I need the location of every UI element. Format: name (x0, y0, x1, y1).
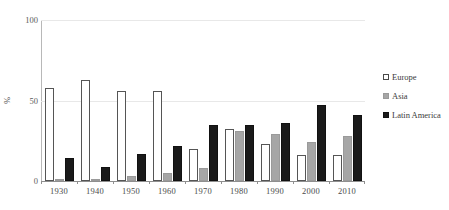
x-tick-label-1940: 1940 (77, 186, 113, 196)
x-tick-mark (41, 181, 42, 184)
gray-square-swatch (383, 93, 389, 99)
bar-group-1950 (113, 20, 149, 181)
bar-group-2000 (293, 20, 329, 181)
x-tick-mark (113, 181, 114, 184)
x-axis-tick-labels: 193019401950196019701980199020002010 (41, 186, 365, 196)
y-tick-label-50: 50 (12, 97, 38, 106)
x-tick-mark (364, 181, 365, 184)
x-tick-mark (221, 181, 222, 184)
bar-group-1970 (185, 20, 221, 181)
bar-europe-1930 (45, 88, 54, 181)
bar-latin-1940 (101, 167, 110, 181)
bar-europe-1970 (189, 149, 198, 181)
x-tick-label-1990: 1990 (257, 186, 293, 196)
bar-europe-2000 (297, 155, 306, 181)
bar-europe-1980 (225, 129, 234, 181)
bar-groups (41, 20, 365, 181)
bar-europe-1940 (81, 80, 90, 181)
bar-latin-1950 (137, 154, 146, 181)
x-tick-mark (185, 181, 186, 184)
bar-europe-1960 (153, 91, 162, 181)
x-tick-label-2010: 2010 (329, 186, 365, 196)
x-tick-mark (293, 181, 294, 184)
legend-item-latin[interactable]: Latin America (383, 110, 441, 120)
bar-asia-1950 (127, 176, 136, 181)
x-tick-mark (329, 181, 330, 184)
bar-latin-1970 (209, 125, 218, 181)
legend-item-europe[interactable]: Europe (383, 72, 441, 82)
bar-asia-2000 (307, 142, 316, 181)
x-tick-mark (257, 181, 258, 184)
plot-area (41, 20, 365, 182)
x-tick-label-1930: 1930 (41, 186, 77, 196)
x-tick-label-1950: 1950 (113, 186, 149, 196)
bar-asia-1930 (55, 179, 64, 181)
x-tick-mark (149, 181, 150, 184)
bar-latin-2010 (353, 115, 362, 181)
bar-asia-1970 (199, 168, 208, 181)
bar-asia-2010 (343, 136, 352, 181)
legend-item-label: Latin America (392, 110, 441, 120)
x-axis-line (41, 181, 365, 182)
bar-europe-1990 (261, 144, 270, 181)
bar-group-2010 (329, 20, 365, 181)
legend-item-label: Asia (392, 91, 408, 101)
bar-latin-1930 (65, 158, 74, 181)
bar-group-1930 (41, 20, 77, 181)
x-tick-mark (77, 181, 78, 184)
bar-group-1960 (149, 20, 185, 181)
legend-item-label: Europe (392, 72, 417, 82)
legend-item-asia[interactable]: Asia (383, 91, 441, 101)
bar-latin-1960 (173, 146, 182, 181)
bar-asia-1940 (91, 179, 100, 181)
x-tick-label-1970: 1970 (185, 186, 221, 196)
bar-chart: % 050100 1930194019501960197019801990200… (0, 0, 449, 210)
y-axis-tick-labels: 050100 (8, 0, 38, 210)
bar-latin-2000 (317, 105, 326, 181)
bar-europe-2010 (333, 155, 342, 181)
x-tick-label-2000: 2000 (293, 186, 329, 196)
bar-asia-1980 (235, 131, 244, 181)
bar-latin-1980 (245, 125, 254, 181)
bar-asia-1990 (271, 134, 280, 181)
bar-group-1940 (77, 20, 113, 181)
bar-group-1980 (221, 20, 257, 181)
x-tick-label-1980: 1980 (221, 186, 257, 196)
open-square-swatch (383, 74, 389, 80)
black-square-swatch (383, 112, 389, 118)
bar-europe-1950 (117, 91, 126, 181)
bar-group-1990 (257, 20, 293, 181)
bar-latin-1990 (281, 123, 290, 181)
bar-asia-1960 (163, 173, 172, 181)
x-tick-label-1960: 1960 (149, 186, 185, 196)
y-tick-label-0: 0 (12, 177, 38, 186)
y-tick-label-100: 100 (12, 16, 38, 25)
chart-legend: EuropeAsiaLatin America (383, 72, 441, 120)
